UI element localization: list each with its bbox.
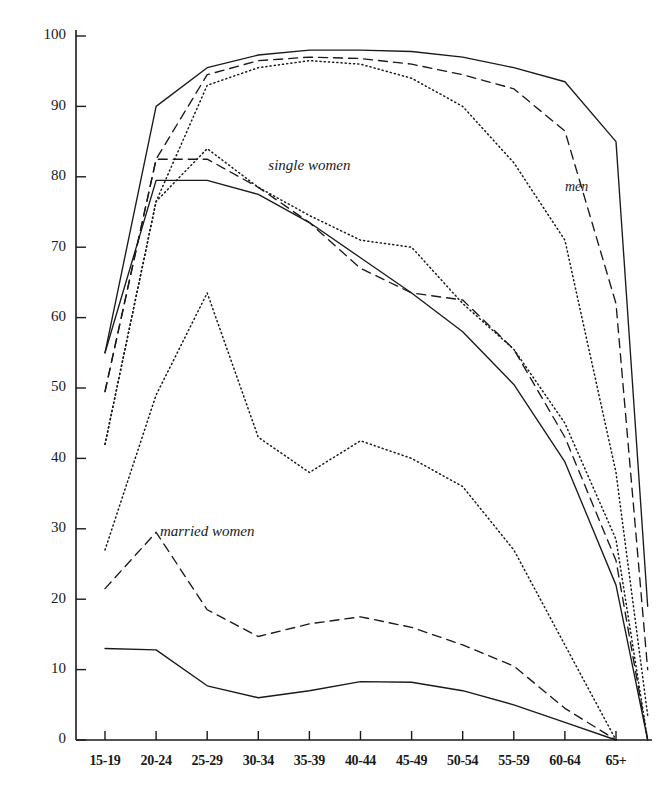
- series-line-men-dotted: [105, 61, 648, 716]
- series-line-married-women-dotted: [105, 293, 616, 740]
- x-tick-label-50-54: 50-54: [447, 753, 478, 768]
- annotation-single-women: single women: [268, 157, 350, 173]
- x-tick-label-20-24: 20-24: [141, 753, 172, 768]
- y-tick-label-30: 30: [51, 519, 66, 535]
- y-axis-tick-labels: 1009080706050403020100: [44, 26, 67, 746]
- series-line-men-dashed: [105, 57, 648, 669]
- x-axis-ticks: [105, 731, 616, 740]
- y-axis-ticks: [76, 36, 86, 740]
- y-tick-label-50: 50: [51, 378, 66, 394]
- x-tick-label-55-59: 55-59: [498, 753, 529, 768]
- x-tick-label-45-49: 45-49: [396, 753, 427, 768]
- series-line-married-women-solid: [105, 648, 616, 740]
- y-tick-label-70: 70: [51, 238, 66, 254]
- annotation-men: men: [565, 179, 588, 194]
- annotation-layer: mensingle womenmarried women: [160, 157, 588, 539]
- series-line-single-women-solid: [105, 180, 648, 740]
- x-tick-label-65+: 65+: [605, 753, 626, 768]
- y-tick-label-40: 40: [51, 449, 66, 465]
- y-tick-label-90: 90: [51, 97, 66, 113]
- y-tick-label-80: 80: [51, 167, 66, 183]
- x-axis-tick-labels: 15-1920-2425-2930-3435-3940-4445-4950-54…: [89, 753, 626, 768]
- x-tick-label-40-44: 40-44: [345, 753, 376, 768]
- x-tick-label-60-64: 60-64: [549, 753, 580, 768]
- series-layer: [105, 50, 648, 740]
- y-tick-label-0: 0: [59, 730, 67, 746]
- y-tick-label-100: 100: [44, 26, 67, 42]
- y-tick-label-20: 20: [51, 590, 66, 606]
- participation-rate-line-chart: 1009080706050403020100 15-1920-2425-2930…: [0, 0, 668, 801]
- axis-group: [76, 30, 652, 740]
- y-tick-label-60: 60: [51, 308, 66, 324]
- x-tick-label-35-39: 35-39: [294, 753, 325, 768]
- series-line-single-women-dotted: [105, 149, 648, 740]
- x-tick-label-15-19: 15-19: [89, 753, 120, 768]
- chart-container: 1009080706050403020100 15-1920-2425-2930…: [0, 0, 668, 801]
- x-tick-label-25-29: 25-29: [192, 753, 223, 768]
- x-tick-label-30-34: 30-34: [243, 753, 274, 768]
- annotation-married-women: married women: [160, 523, 255, 539]
- y-tick-label-10: 10: [51, 660, 66, 676]
- series-line-married-women-dashed: [105, 532, 616, 740]
